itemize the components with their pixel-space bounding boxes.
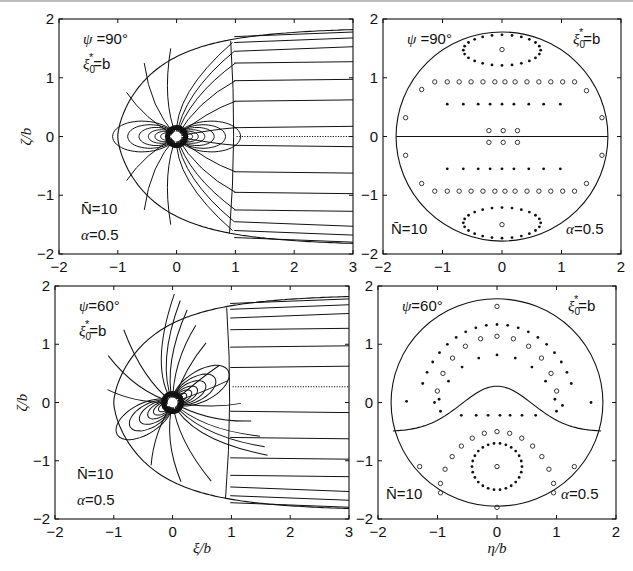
field-line — [230, 458, 352, 459]
dot-marker — [481, 208, 484, 211]
dot-marker — [534, 229, 537, 232]
dot-marker — [473, 211, 476, 214]
dot-marker — [510, 484, 513, 487]
field-line — [234, 238, 356, 243]
x-tick-label: 1 — [552, 523, 560, 540]
field-line — [234, 231, 356, 236]
dot-marker — [520, 62, 523, 65]
open-marker — [433, 189, 437, 193]
dot-marker — [513, 167, 516, 170]
open-marker — [419, 181, 423, 185]
open-marker — [537, 189, 541, 193]
x-tick-label: −1 — [434, 258, 451, 275]
separatrix — [230, 41, 234, 234]
n-annotation: N̄=10 — [81, 200, 117, 217]
open-marker — [441, 371, 445, 375]
x-tick-label: 2 — [286, 523, 294, 540]
dot-marker — [528, 60, 531, 63]
open-marker — [482, 431, 486, 435]
open-marker — [539, 356, 543, 360]
x-tick-label: 1 — [227, 523, 235, 540]
dot-marker — [511, 34, 514, 37]
dot-marker — [481, 36, 484, 39]
dot-marker — [511, 63, 514, 66]
x-tick-label: 3 — [345, 523, 353, 540]
dot-marker — [570, 382, 573, 385]
dot-marker — [493, 488, 496, 491]
open-marker — [500, 222, 504, 226]
dot-marker — [496, 323, 499, 326]
dot-marker — [487, 487, 490, 490]
panel-bottom-right: −2−1012−2−1012η/bψ=60°ξ0*=bN̄=10α=0.5 — [356, 277, 620, 556]
x-tick-label: 1 — [557, 258, 565, 275]
dot-marker — [534, 414, 537, 417]
dot-marker — [467, 41, 470, 44]
dot-marker — [509, 414, 512, 417]
open-marker — [549, 371, 553, 375]
psi-annotation: ψ=60° — [402, 297, 443, 314]
dot-marker — [553, 351, 556, 354]
open-marker — [513, 80, 517, 84]
dot-marker — [536, 336, 539, 339]
open-marker — [572, 189, 576, 193]
x-tick-label: 3 — [349, 258, 357, 275]
alpha-annotation: α=0.5 — [566, 220, 604, 237]
dot-marker — [506, 324, 509, 327]
dot-marker — [496, 354, 499, 357]
open-marker — [495, 334, 499, 338]
field-line — [230, 313, 352, 318]
dot-marker — [431, 361, 434, 364]
open-marker — [493, 189, 497, 193]
dot-marker — [405, 400, 408, 403]
dot-marker — [544, 380, 547, 383]
dot-marker — [545, 343, 548, 346]
open-marker — [503, 189, 507, 193]
y-tick-label: −2 — [33, 510, 50, 527]
dot-marker — [477, 481, 480, 484]
dot-marker — [473, 454, 476, 457]
open-marker — [526, 344, 530, 348]
x-tick-label: −1 — [429, 523, 446, 540]
dot-marker — [487, 414, 490, 417]
y-tick-label: 1 — [365, 335, 373, 352]
dot-marker — [513, 103, 516, 106]
dot-marker — [528, 232, 531, 235]
dot-marker — [501, 237, 504, 240]
dot-marker — [534, 214, 537, 217]
dot-marker — [559, 103, 562, 106]
open-marker — [501, 128, 505, 132]
dot-marker — [473, 60, 476, 63]
dot-marker — [439, 410, 442, 413]
alpha-annotation: α=0.5 — [561, 485, 599, 502]
dot-marker — [534, 41, 537, 44]
open-marker — [469, 80, 473, 84]
open-marker — [572, 80, 576, 84]
open-marker — [560, 189, 564, 193]
separatrix — [226, 308, 230, 499]
dot-marker — [477, 450, 480, 453]
dot-marker — [487, 443, 490, 446]
dot-marker — [477, 167, 480, 170]
xi-annotation: ξ0*=b — [79, 318, 106, 342]
dot-marker — [499, 488, 502, 491]
y-tick-label: −1 — [33, 452, 50, 469]
xi-annotation: ξ0*=b — [83, 51, 110, 75]
open-marker — [487, 140, 491, 144]
open-marker — [403, 153, 407, 157]
panel-top-right: −2−1012−2−1012ψ =90°ξ0*=bN̄=10α=0.5 — [361, 10, 625, 275]
dot-marker — [561, 404, 564, 407]
y-tick-label: −2 — [361, 245, 378, 262]
open-marker — [438, 481, 442, 485]
dot-marker — [481, 484, 484, 487]
dot-marker — [438, 398, 441, 401]
dot-marker — [481, 62, 484, 65]
open-marker — [560, 80, 564, 84]
open-marker — [419, 87, 423, 91]
dot-marker — [520, 36, 523, 39]
dot-marker — [520, 460, 523, 463]
field-line — [230, 475, 352, 476]
y-tick-label: −1 — [356, 452, 373, 469]
x-tick-label: 2 — [612, 523, 620, 540]
dot-marker — [471, 471, 474, 474]
field-line — [234, 126, 356, 127]
